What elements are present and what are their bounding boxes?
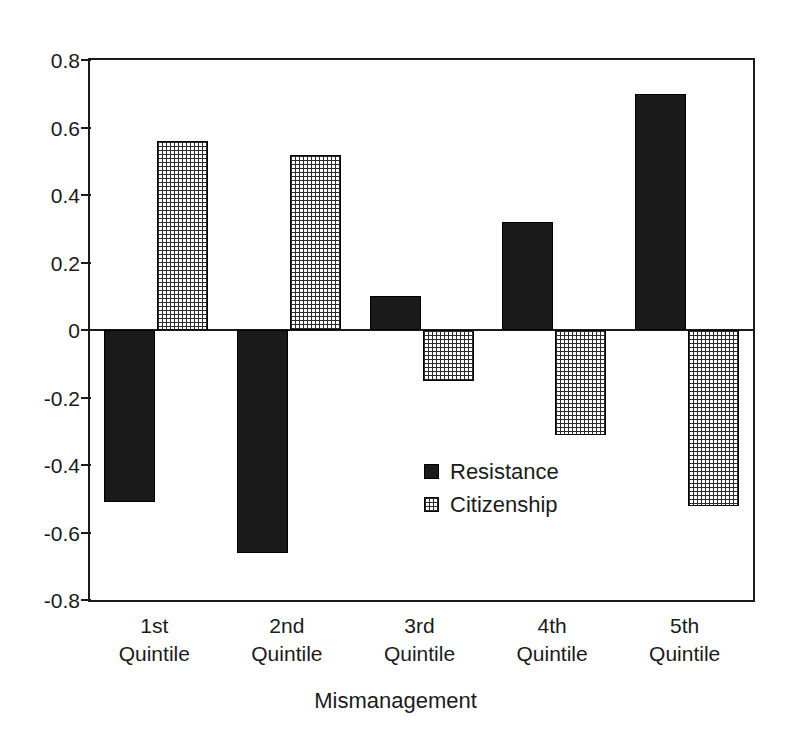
y-axis-tick-mark — [81, 59, 91, 61]
bar-citizenship-2 — [290, 155, 341, 331]
x-axis-category-line2: Quintile — [618, 640, 751, 668]
x-axis-category-line1: 2nd — [221, 612, 354, 640]
x-axis-category-4: 4thQuintile — [486, 612, 619, 668]
x-axis-category-labels: 1stQuintile2ndQuintile3rdQuintile4thQuin… — [88, 612, 755, 676]
x-axis-category-5: 5thQuintile — [618, 612, 751, 668]
legend-item-resistance: Resistance — [424, 455, 559, 488]
y-axis-tick-mark — [81, 329, 91, 331]
y-axis-tick-label: 0.6 — [51, 117, 80, 138]
x-axis-category-line1: 4th — [486, 612, 619, 640]
x-axis-category-line2: Quintile — [88, 640, 221, 668]
y-axis-tick-mark — [81, 194, 91, 196]
y-axis-tick-label: 0.4 — [51, 185, 80, 206]
legend-label-citizenship: Citizenship — [450, 494, 558, 516]
x-axis-category-line2: Quintile — [486, 640, 619, 668]
bar-citizenship-4 — [555, 330, 606, 435]
bar-citizenship-3 — [423, 330, 474, 381]
y-axis-tick-mark — [81, 127, 91, 129]
y-axis-tick-label: -0.4 — [44, 455, 80, 476]
bar-resistance-3 — [370, 296, 421, 330]
y-axis-tick-mark — [81, 532, 91, 534]
y-axis-tick-mark — [81, 397, 91, 399]
y-axis-tick-label: 0.2 — [51, 252, 80, 273]
y-axis-tick-label: -0.6 — [44, 522, 80, 543]
y-axis-tick-label: 0 — [68, 320, 80, 341]
bar-resistance-5 — [635, 94, 686, 330]
x-axis-category-2: 2ndQuintile — [221, 612, 354, 668]
legend-label-resistance: Resistance — [450, 461, 559, 483]
y-axis-tick-mark — [81, 262, 91, 264]
bar-citizenship-1 — [157, 141, 208, 330]
bar-resistance-2 — [237, 330, 288, 553]
legend-swatch-resistance-icon — [424, 464, 439, 479]
x-axis-category-1: 1stQuintile — [88, 612, 221, 668]
x-axis-category-line1: 3rd — [353, 612, 486, 640]
y-axis-tick-label: -0.8 — [44, 590, 80, 611]
x-axis-title: Mismanagement — [0, 688, 791, 714]
plot-frame: 0.80.60.40.20-0.2-0.4-0.6-0.8 — [88, 58, 755, 602]
x-axis-category-3: 3rdQuintile — [353, 612, 486, 668]
bar-citizenship-5 — [688, 330, 739, 506]
legend-item-citizenship: Citizenship — [424, 488, 559, 521]
chart-legend: Resistance Citizenship — [424, 455, 559, 521]
y-axis-tick-label: 0.8 — [51, 50, 80, 71]
bar-chart: 0.80.60.40.20-0.2-0.4-0.6-0.8 Resistance… — [0, 0, 791, 741]
y-axis-tick-label: -0.2 — [44, 387, 80, 408]
x-axis-category-line1: 1st — [88, 612, 221, 640]
bar-resistance-4 — [502, 222, 553, 330]
x-axis-category-line2: Quintile — [221, 640, 354, 668]
plot-area: 0.80.60.40.20-0.2-0.4-0.6-0.8 — [90, 60, 753, 600]
x-axis-category-line1: 5th — [618, 612, 751, 640]
x-axis-category-line2: Quintile — [353, 640, 486, 668]
y-axis-tick-mark — [81, 599, 91, 601]
bar-resistance-1 — [104, 330, 155, 502]
legend-swatch-citizenship-icon — [424, 497, 439, 512]
y-axis-tick-mark — [81, 464, 91, 466]
